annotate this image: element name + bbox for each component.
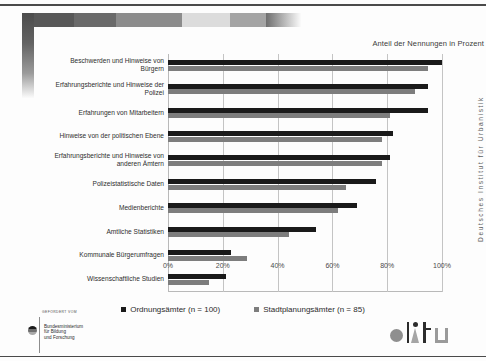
category-label: Erfahrungen von Mitarbeitern <box>4 109 164 117</box>
plot-area <box>168 54 442 292</box>
bmbf-ministry-name: Bundesministeriumfür Bildungund Forschun… <box>44 324 83 340</box>
bar <box>168 155 390 160</box>
bar <box>168 60 442 65</box>
bar <box>168 232 289 237</box>
difu-letter-l <box>407 322 409 343</box>
x-tick-label: 60% <box>325 262 339 269</box>
bar <box>168 179 376 184</box>
bmbf-kicker-label: GEFÖRDERT VOM <box>42 310 77 314</box>
difu-letter-f-stem <box>423 322 426 343</box>
x-tick-label: 80% <box>380 262 394 269</box>
legend-label: Stadtplanungsämter (n = 85) <box>263 305 365 314</box>
bar <box>168 161 382 166</box>
bar <box>168 108 428 113</box>
bar-chart: Anteil der Nennungen in Prozent Beschwer… <box>0 34 486 286</box>
category-label: Medienberichte <box>4 204 164 212</box>
bar <box>168 256 247 261</box>
difu-letter-f-arm <box>423 328 431 330</box>
axis-title: Anteil der Nennungen in Prozent <box>372 39 484 48</box>
category-label: Kommunale Bürgerumfragen <box>4 251 164 259</box>
bar <box>168 274 226 279</box>
legend-swatch <box>254 307 259 312</box>
legend-label: Ordnungsämter (n = 100) <box>130 305 220 314</box>
bar <box>168 208 338 213</box>
category-label: Amtliche Statistiken <box>4 228 164 236</box>
difu-letter-u-base <box>435 340 448 343</box>
decorative-gradient-band <box>22 13 302 27</box>
bar <box>168 84 428 89</box>
category-label: Wissenschaftliche Studien <box>4 275 164 283</box>
bmbf-logo: GEFÖRDERT VOM Bundesministeriumfür Bildu… <box>28 310 138 354</box>
bar <box>168 113 390 118</box>
bar <box>168 137 382 142</box>
german-flag-icon <box>28 326 37 335</box>
bmbf-divider <box>39 317 40 353</box>
difu-circle-icon <box>390 329 403 342</box>
bar <box>168 250 231 255</box>
bar <box>168 185 346 190</box>
bar <box>168 227 316 232</box>
legend-item: Stadtplanungsämter (n = 85) <box>254 305 365 314</box>
x-tick-label: 0% <box>163 262 173 269</box>
bar <box>168 131 393 136</box>
difu-letter-i-dot <box>413 322 418 327</box>
gridline <box>442 54 443 292</box>
bottom-divider <box>0 356 486 358</box>
difu-letter-i-body <box>411 328 419 343</box>
category-label: Beschwerden und Hinweise vonBürgern <box>4 57 164 72</box>
x-tick-label: 100% <box>433 262 451 269</box>
bar <box>168 89 415 94</box>
bar <box>168 203 357 208</box>
category-label: Erfahrungsberichte und Hinweise derPoliz… <box>4 81 164 96</box>
x-tick-label: 20% <box>216 262 230 269</box>
category-label: Hinweise von der politischen Ebene <box>4 132 164 140</box>
x-axis-ticks: 0%20%40%60%80%100% <box>168 262 442 274</box>
institute-caption: Deutsches Institut für Urbanistik <box>477 96 484 242</box>
figure-page: Anteil der Nennungen in Prozent Beschwer… <box>0 0 486 361</box>
x-tick-label: 40% <box>271 262 285 269</box>
category-label: Polizeistatistische Daten <box>4 180 164 188</box>
bar <box>168 280 209 285</box>
top-divider <box>0 4 486 6</box>
bar <box>168 66 428 71</box>
difu-logo <box>390 322 452 348</box>
category-label: Erfahrungsberichte und Hinweise vonander… <box>4 152 164 167</box>
